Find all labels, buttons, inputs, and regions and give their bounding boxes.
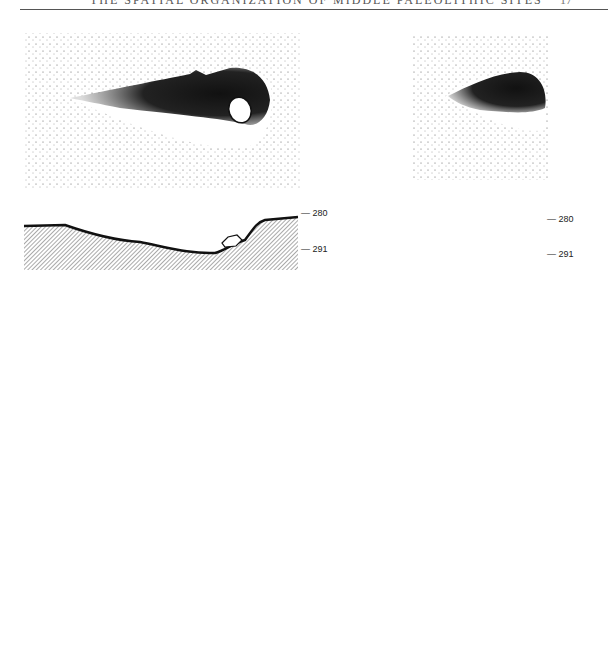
depth-label-291-left: — 291 [301, 244, 328, 254]
top-right-plan [413, 35, 548, 180]
top-left-plan [25, 33, 300, 188]
depth-label-280-left: — 280 [301, 208, 328, 218]
left-section-profile [24, 217, 298, 270]
depth-label-291-right: — 291 [547, 249, 574, 259]
figure-illustration [0, 0, 610, 650]
depth-label-280-right: — 280 [547, 214, 574, 224]
